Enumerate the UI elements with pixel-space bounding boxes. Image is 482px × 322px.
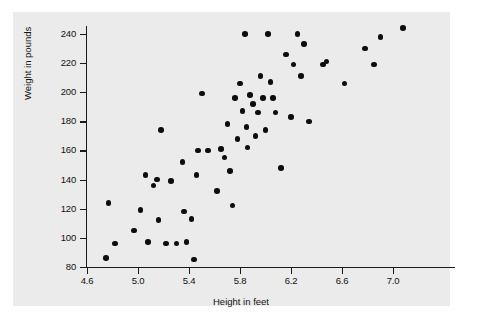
data-point bbox=[260, 95, 266, 101]
scatter-plot-figure: 80100120140160180200220240 4.65.05.45.86… bbox=[0, 0, 482, 322]
y-tick-label: 180 bbox=[46, 115, 76, 126]
data-point bbox=[214, 188, 220, 194]
data-point bbox=[371, 62, 377, 68]
data-point bbox=[227, 168, 233, 174]
data-point bbox=[378, 34, 384, 40]
x-tick-label: 5.0 bbox=[121, 275, 155, 286]
data-point bbox=[265, 31, 271, 37]
data-point bbox=[237, 81, 243, 87]
data-point bbox=[242, 31, 248, 37]
data-point bbox=[250, 101, 256, 107]
data-point bbox=[131, 228, 137, 234]
x-tick-label: 5.4 bbox=[172, 275, 206, 286]
data-point bbox=[306, 119, 312, 125]
data-point bbox=[235, 136, 241, 142]
data-point bbox=[301, 41, 307, 47]
data-point bbox=[106, 200, 112, 206]
y-axis-line bbox=[86, 26, 87, 268]
y-tick-label: 140 bbox=[46, 174, 76, 185]
y-tick-mark bbox=[80, 92, 86, 93]
data-point bbox=[400, 25, 406, 31]
x-tick-mark bbox=[138, 268, 139, 274]
data-point bbox=[191, 257, 197, 263]
data-point bbox=[154, 177, 160, 183]
x-axis-line bbox=[86, 267, 455, 268]
data-point bbox=[158, 127, 164, 133]
data-point bbox=[295, 31, 301, 37]
data-point bbox=[218, 146, 224, 152]
x-tick-mark bbox=[189, 268, 190, 274]
x-tick-mark bbox=[240, 268, 241, 274]
x-tick-mark bbox=[393, 268, 394, 274]
data-point bbox=[278, 165, 284, 171]
data-point bbox=[283, 52, 289, 58]
data-point bbox=[163, 241, 169, 247]
data-point bbox=[255, 110, 261, 116]
data-point bbox=[253, 133, 259, 139]
plot-panel bbox=[13, 12, 450, 306]
x-tick-label: 5.8 bbox=[223, 275, 257, 286]
data-point bbox=[205, 148, 211, 154]
data-point bbox=[288, 114, 294, 120]
y-tick-mark bbox=[80, 238, 86, 239]
y-tick-label: 200 bbox=[46, 86, 76, 97]
y-tick-label: 240 bbox=[46, 28, 76, 39]
x-tick-mark bbox=[291, 268, 292, 274]
data-point bbox=[232, 95, 238, 101]
data-point bbox=[151, 183, 157, 189]
data-point bbox=[138, 207, 144, 213]
data-point bbox=[184, 239, 190, 245]
data-point bbox=[112, 241, 118, 247]
data-point bbox=[298, 73, 304, 79]
x-tick-label: 6.6 bbox=[325, 275, 359, 286]
data-point bbox=[145, 239, 151, 245]
data-point bbox=[225, 121, 231, 127]
y-tick-mark bbox=[80, 180, 86, 181]
y-tick-mark bbox=[80, 267, 86, 268]
y-tick-label: 80 bbox=[46, 261, 76, 272]
data-point bbox=[258, 73, 264, 79]
data-point bbox=[199, 91, 205, 97]
data-point bbox=[103, 255, 109, 261]
y-axis-title: Weight in pounds bbox=[22, 27, 33, 100]
y-tick-mark bbox=[80, 150, 86, 151]
x-tick-mark bbox=[87, 268, 88, 274]
data-point bbox=[181, 209, 187, 215]
data-point bbox=[195, 148, 201, 154]
x-tick-mark bbox=[342, 268, 343, 274]
x-tick-label: 4.6 bbox=[70, 275, 104, 286]
data-point bbox=[156, 217, 162, 223]
data-point bbox=[270, 95, 276, 101]
data-point bbox=[362, 46, 368, 52]
data-point bbox=[263, 127, 269, 133]
data-point bbox=[247, 92, 253, 98]
data-point bbox=[168, 178, 174, 184]
x-axis-title: Height in feet bbox=[0, 296, 482, 307]
x-tick-label: 7.0 bbox=[376, 275, 410, 286]
x-tick-label: 6.2 bbox=[274, 275, 308, 286]
y-tick-mark bbox=[80, 209, 86, 210]
y-tick-mark bbox=[80, 121, 86, 122]
y-tick-mark bbox=[80, 34, 86, 35]
data-point bbox=[189, 216, 195, 222]
data-point bbox=[244, 124, 250, 130]
y-tick-label: 100 bbox=[46, 232, 76, 243]
y-tick-label: 120 bbox=[46, 203, 76, 214]
y-tick-label: 160 bbox=[46, 144, 76, 155]
y-tick-mark bbox=[80, 63, 86, 64]
y-tick-label: 220 bbox=[46, 57, 76, 68]
